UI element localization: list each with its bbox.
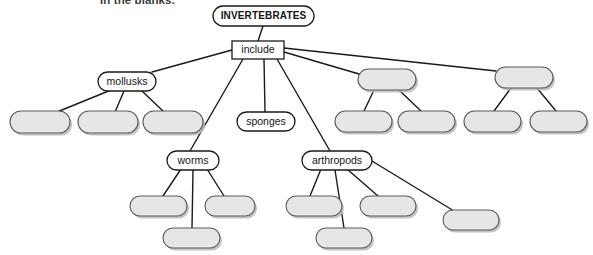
node-box-blank-branch-1-child-1[interactable]	[335, 111, 392, 132]
node-box-worms-child-3[interactable]	[163, 228, 220, 248]
invertebrates-concept-map: INVERTEBRATESincludemolluskswormssponges…	[0, 0, 593, 255]
node-box-worms-child-2[interactable]	[205, 196, 255, 216]
node-box-arthropods-child-4[interactable]	[316, 228, 372, 248]
node-label-include: include	[241, 43, 274, 55]
edge-arthropods-to-arthropods-child-1	[310, 169, 321, 196]
edge-include-to-mollusks	[152, 50, 232, 72]
node-arthropods-child-2[interactable]	[360, 196, 418, 219]
node-box-blank-branch-1[interactable]	[358, 69, 416, 90]
node-blank-branch-2-child-2[interactable]	[530, 111, 589, 135]
edge-blank-branch-2-to-blank-branch-2-child-2	[537, 88, 556, 111]
worksheet-page: in the blanks. INVERTEBRATESincludemollu…	[0, 0, 593, 255]
node-blank-branch-1-child-2[interactable]	[398, 111, 457, 135]
node-include[interactable]: include	[232, 41, 284, 59]
node-box-blank-branch-2-child-1[interactable]	[464, 111, 521, 132]
edge-mollusks-to-mollusks-child-3	[142, 91, 164, 112]
node-box-mollusks-child-3[interactable]	[143, 111, 203, 133]
node-box-worms-child-1[interactable]	[130, 196, 187, 216]
node-blank-branch-2-child-1[interactable]	[464, 111, 523, 135]
node-box-blank-branch-2[interactable]	[495, 67, 553, 88]
edge-arthropods-to-arthropods-child-2	[347, 169, 378, 196]
edge-mollusks-to-mollusks-child-2	[115, 91, 124, 112]
edge-include-to-sponges	[264, 59, 265, 112]
node-arthropods-child-1[interactable]	[286, 196, 344, 219]
node-worms-child-3[interactable]	[163, 228, 222, 251]
node-box-blank-branch-2-child-2[interactable]	[530, 111, 587, 132]
edge-mollusks-to-mollusks-child-1	[57, 90, 111, 112]
node-box-blank-branch-1-child-2[interactable]	[398, 111, 455, 132]
node-sponges[interactable]: sponges	[237, 112, 295, 131]
node-arthropods[interactable]: arthropods	[302, 151, 372, 170]
edge-include-to-blank-branch-2	[284, 48, 496, 71]
node-label-root: INVERTEBRATES	[221, 10, 307, 21]
node-arthropods-child-3[interactable]	[443, 210, 501, 233]
node-blank-branch-1-child-1[interactable]	[335, 111, 394, 135]
node-box-arthropods-child-1[interactable]	[286, 196, 342, 216]
edge-worms-to-worms-child-1	[163, 169, 181, 196]
node-worms[interactable]: worms	[167, 151, 219, 170]
edge-include-to-worms	[190, 59, 243, 151]
node-label-mollusks: mollusks	[107, 75, 148, 87]
node-mollusks[interactable]: mollusks	[98, 72, 156, 91]
edge-blank-branch-1-to-blank-branch-1-child-2	[399, 90, 421, 111]
node-mollusks-child-3[interactable]	[143, 111, 205, 136]
node-mollusks-child-1[interactable]	[10, 111, 72, 136]
node-blank-branch-2[interactable]	[495, 67, 555, 91]
node-mollusks-child-2[interactable]	[78, 111, 140, 136]
edge-include-to-arthropods	[277, 59, 330, 151]
node-root[interactable]: INVERTEBRATES	[213, 6, 314, 26]
edge-root-to-include	[258, 26, 263, 41]
node-box-mollusks-child-2[interactable]	[78, 111, 138, 133]
node-box-arthropods-child-2[interactable]	[360, 196, 416, 216]
edge-worms-to-worms-child-2	[207, 169, 224, 196]
node-layer: INVERTEBRATESincludemolluskswormssponges…	[10, 6, 589, 251]
node-box-mollusks-child-1[interactable]	[10, 111, 70, 133]
node-label-worms: worms	[177, 154, 209, 166]
edge-worms-to-worms-child-3	[192, 170, 193, 228]
edge-blank-branch-1-to-blank-branch-1-child-1	[364, 90, 374, 111]
node-worms-child-1[interactable]	[130, 196, 189, 219]
node-arthropods-child-4[interactable]	[316, 228, 374, 251]
node-worms-child-2[interactable]	[205, 196, 257, 219]
node-box-arthropods-child-3[interactable]	[443, 210, 499, 230]
node-label-sponges: sponges	[246, 115, 286, 127]
edge-blank-branch-2-to-blank-branch-2-child-1	[494, 88, 511, 111]
node-blank-branch-1[interactable]	[358, 69, 418, 93]
node-label-arthropods: arthropods	[312, 154, 362, 166]
